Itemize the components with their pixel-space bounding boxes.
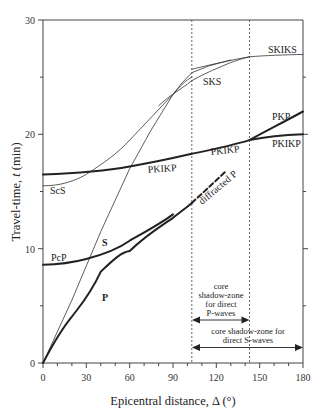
label-SKS: SKS [203,76,221,87]
x-tick-0: 0 [41,372,46,383]
x-tick-150: 150 [252,372,267,383]
label-SKIKS: SKIKS [268,44,297,55]
x-axis-tick-labels: 0 30 60 90 120 150 180 [41,372,311,383]
x-tick-60: 60 [125,372,135,383]
y-tick-20: 20 [25,129,35,140]
p-zone-line-4: P-waves [207,308,236,318]
label-S: S [102,237,108,248]
p-shadow-zone-annotation: core shadow-zone for direct P-waves [192,281,250,324]
y-axis-title-unit: (min) [9,142,23,173]
x-axis-ticks [43,363,303,368]
plot-frame [43,20,303,363]
y-tick-30: 30 [25,15,35,26]
x-axis-title: Epicentral distance, Δ (°) [110,394,236,408]
label-PKIKP-left: PKIKP [147,162,177,175]
x-tick-90: 90 [168,372,178,383]
arrow-left-icon [192,317,200,324]
x-tick-180: 180 [296,372,311,383]
x-tick-30: 30 [81,372,91,383]
label-P: P [102,292,108,303]
label-PKIKP-mid: PKIKP [210,143,240,157]
label-PcP: PcP [51,252,67,263]
x-tick-120: 120 [209,372,224,383]
arrow-left-icon [192,344,200,351]
y-axis-title: Travel-time, t (min) [9,142,23,241]
arrow-right-icon [242,317,250,324]
y-axis-tick-labels: 0 10 20 30 [25,15,35,369]
label-PKP: PKP [272,111,291,122]
y-tick-0: 0 [30,358,35,369]
curve-P [43,203,192,363]
curve-SKIKS [192,54,303,69]
s-zone-line-2: direct S-waves [223,335,273,345]
label-diffracted-P: diffracted P [196,168,239,207]
y-axis-title-text: Travel-time, [9,177,23,242]
label-ScS: ScS [50,185,66,196]
arrow-right-icon [295,344,303,351]
s-shadow-zone-annotation: core shadow-zone for direct S-waves [192,326,303,351]
travel-time-chart: 0 30 60 90 120 150 180 0 10 20 30 Epicen… [0,0,325,419]
label-PKIKP-right: PKIKP [272,138,301,149]
y-tick-10: 10 [25,244,35,255]
y-axis-ticks [38,20,308,363]
